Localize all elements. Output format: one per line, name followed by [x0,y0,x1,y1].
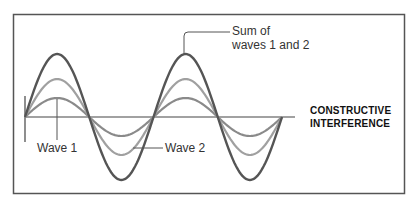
sum-leader [184,32,230,54]
interference-diagram [0,0,413,204]
sum-label-line1: Sum of [232,24,270,38]
caption-line1: CONSTRUCTIVE [310,104,391,117]
wave-2-label: Wave 2 [165,141,205,155]
caption-line2: INTERFERENCE [310,117,390,130]
sum-label-line2: waves 1 and 2 [232,38,309,52]
wave-1-label: Wave 1 [37,141,77,155]
